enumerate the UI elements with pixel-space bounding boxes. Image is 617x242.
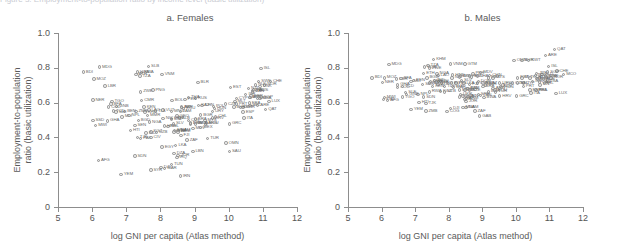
scatter-point-label: DJI <box>164 165 170 169</box>
scatter-point-label: GRC <box>519 94 528 98</box>
scatter-point-label: LUX <box>272 99 280 103</box>
scatter-point <box>439 90 442 93</box>
scatter-point <box>160 145 163 148</box>
scatter-point-label: OMN <box>229 141 239 145</box>
scatter-point-label: LKA <box>178 143 186 147</box>
scatter-point-label: JAM <box>183 109 191 113</box>
scatter-point <box>458 88 461 91</box>
scatter-point <box>91 98 94 101</box>
scatter-point <box>134 110 137 113</box>
scatter-point-label: PNG <box>156 88 165 92</box>
scatter-point <box>147 65 150 68</box>
scatter-point <box>91 119 94 122</box>
scatter-point-label: SLB <box>151 64 159 68</box>
x-tick-label: 12 <box>287 214 307 223</box>
y-axis-label: Employment-to-populationratio (basic uti… <box>12 33 33 207</box>
scatter-point-label: FJI <box>472 82 478 86</box>
scatter-point-label: ALB <box>182 116 190 120</box>
scatter-point <box>424 102 427 105</box>
scatter-point-label: TZA <box>143 74 151 78</box>
scatter-point-label: UZB <box>447 89 455 93</box>
scatter-point-label: LBR <box>108 84 116 88</box>
scatter-point <box>248 96 251 99</box>
scatter-point-label: SDN <box>426 95 435 99</box>
scatter-point-label: ARE <box>548 53 557 57</box>
x-axis-label: log GNI per capita (Atlas method) <box>308 231 617 241</box>
scatter-point <box>228 122 231 125</box>
scatter-point-label: MYS <box>207 118 216 122</box>
x-tick-label: 5 <box>48 214 68 223</box>
x-tick-label: 11 <box>539 214 559 223</box>
scatter-point <box>161 117 164 120</box>
x-tick <box>382 208 383 212</box>
scatter-point <box>119 173 122 176</box>
scatter-point <box>428 90 431 93</box>
scatter-point-label: MDG <box>102 65 112 69</box>
scatter-point <box>170 163 173 166</box>
scatter-point-label: QAT <box>557 47 565 51</box>
scatter-point <box>179 174 182 177</box>
scatter-point <box>94 124 97 127</box>
scatter-point-label: IRN <box>183 174 190 178</box>
scatter-point <box>170 99 173 102</box>
scatter-point-label: KGZ <box>153 129 162 133</box>
y-axis-label: Employment-to-populationratio (basic uti… <box>302 33 323 207</box>
scatter-point-label: SSD <box>95 118 104 122</box>
scatter-point <box>515 94 518 97</box>
scatter-point <box>103 84 106 87</box>
scatter-point <box>224 141 227 144</box>
scatter-point <box>445 110 448 113</box>
scatter-point-label: ITA <box>247 116 253 120</box>
scatter-point <box>544 54 547 57</box>
scatter-point <box>461 106 464 109</box>
scatter-point <box>443 90 446 93</box>
scatter-point <box>476 74 479 77</box>
scatter-point <box>172 152 175 155</box>
scatter-point <box>528 88 531 91</box>
scatter-point <box>241 110 244 113</box>
panel-males: b. Males 00.20.40.60.81.056789101112log … <box>312 0 617 242</box>
scatter-point <box>247 87 250 90</box>
x-tick <box>415 208 416 212</box>
scatter-point <box>386 99 389 102</box>
scatter-point <box>228 150 231 153</box>
x-tick <box>583 208 584 212</box>
scatter-point-label: KEN <box>435 84 444 88</box>
scatter-point <box>395 77 398 80</box>
scatter-point <box>396 86 399 89</box>
scatter-point <box>189 121 192 124</box>
scatter-point-label: AZE <box>184 105 192 109</box>
scatter-point <box>232 105 235 108</box>
x-tick <box>92 208 93 212</box>
scatter-point <box>429 80 432 83</box>
x-axis-label: log GNI per capita (Atlas method) <box>18 231 337 241</box>
scatter-point <box>251 90 254 93</box>
scatter-point <box>127 114 130 117</box>
scatter-point <box>149 130 152 133</box>
scatter-point-label: BDI <box>86 70 93 74</box>
x-tick-label: 11 <box>253 214 273 223</box>
scatter-point <box>424 109 427 112</box>
scatter-point <box>432 58 435 61</box>
scatter-point-label: TLS <box>158 109 166 113</box>
scatter-point-label: PER <box>188 97 197 101</box>
scatter-point <box>160 73 163 76</box>
scatter-point-label: VNM <box>165 72 174 76</box>
scatter-point <box>140 99 143 102</box>
scatter-point <box>139 90 142 93</box>
scatter-point-label: AZE <box>472 88 480 92</box>
scatter-point <box>422 95 425 98</box>
scatter-point-label: CIV <box>153 135 160 139</box>
scatter-point-label: LBN <box>483 93 491 97</box>
x-tick <box>482 208 483 212</box>
x-tick <box>297 208 298 212</box>
scatter-point-label: SDN <box>137 154 146 158</box>
scatter-point-label: GAB <box>482 114 491 118</box>
scatter-point <box>197 104 200 107</box>
x-tick <box>160 208 161 212</box>
x-tick-label: 10 <box>506 214 526 223</box>
x-tick <box>449 208 450 212</box>
scatter-point-label: BDI <box>375 75 382 79</box>
scatter-point <box>172 122 175 125</box>
scatter-point-label: ZMB <box>428 109 437 113</box>
